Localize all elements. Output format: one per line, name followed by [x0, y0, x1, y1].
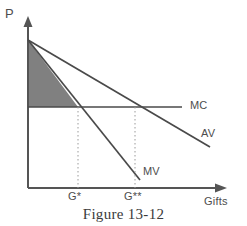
x-tick-label-g-star: G*: [68, 190, 81, 202]
y-axis-arrow-icon: [24, 16, 33, 27]
figure-caption: Figure 13-12: [0, 206, 247, 223]
av-curve-label: AV: [201, 127, 215, 139]
x-tick-label-g-star-star: G**: [124, 190, 142, 202]
x-axis-arrow-icon: [215, 184, 227, 193]
y-axis-label: P: [5, 6, 14, 21]
mv-curve: [28, 40, 140, 180]
mc-curve-label: MC: [190, 99, 208, 111]
mv-curve-label: MV: [143, 165, 160, 177]
figure-container: P Gifts MC AV MV G* G** Figure 13-12: [0, 0, 247, 226]
